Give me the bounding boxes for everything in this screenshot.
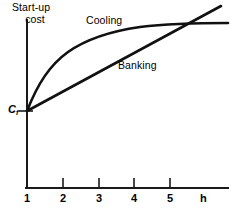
x-tick-label-3: 3 (92, 192, 106, 204)
series-label-banking: Banking (118, 59, 157, 71)
cf-base: C (8, 103, 16, 115)
series-label-cooling: Cooling (86, 14, 122, 26)
x-tick-label-2: 2 (56, 192, 70, 204)
y-axis-label-line2: cost (10, 13, 68, 25)
y-axis-value-cf: Cf (8, 103, 19, 119)
x-axis-variable-label: h (200, 192, 207, 204)
x-axis-ticks (27, 178, 170, 188)
chart-canvas (0, 0, 234, 211)
cf-subscript: f (16, 108, 19, 117)
x-tick-label-4: 4 (127, 192, 141, 204)
y-axis-label-line1: Start-up (10, 1, 68, 13)
chart-figure: Start-up cost Cooling Banking Cf 1 2 3 4… (0, 0, 234, 211)
x-tick-label-5: 5 (163, 192, 177, 204)
x-tick-label-1: 1 (20, 192, 34, 204)
y-axis-label: Start-up cost (10, 1, 68, 25)
